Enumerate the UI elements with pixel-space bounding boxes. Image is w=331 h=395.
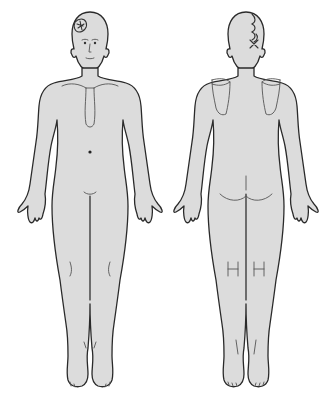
- body-diagram-svg: [0, 0, 331, 395]
- navel: [88, 150, 91, 153]
- back-head: [227, 12, 265, 72]
- front-figure: [18, 12, 162, 387]
- body-diagram: Front view Back view: [0, 0, 331, 395]
- back-figure: [174, 12, 318, 387]
